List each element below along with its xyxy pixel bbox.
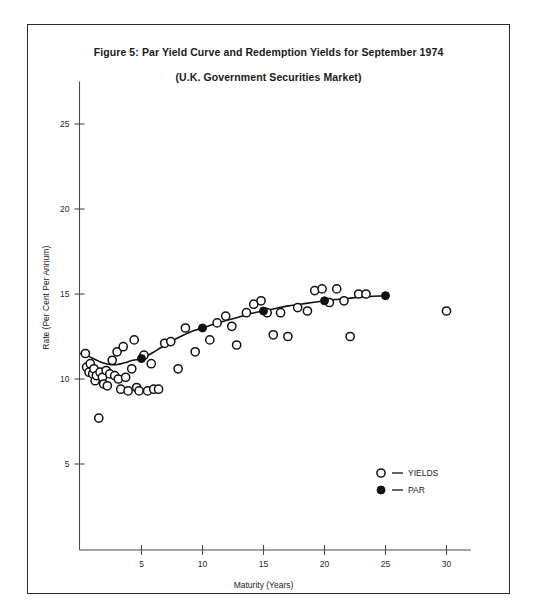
x-tick-label: 15: [259, 559, 269, 569]
legend-entry-label: PAR: [408, 485, 425, 495]
yield-data-point: [269, 331, 277, 339]
yield-data-point: [147, 360, 155, 368]
yield-data-point: [340, 297, 348, 305]
axis-labels-group: Maturity (Years)Rate (Per Cent Per Annum…: [41, 246, 294, 590]
yield-data-point: [228, 322, 236, 330]
x-tick-label: 20: [320, 559, 330, 569]
yield-data-point: [233, 341, 241, 349]
par-data-point: [321, 297, 329, 305]
yield-data-point: [318, 285, 326, 293]
axes-group: 51015202551015202530: [60, 82, 471, 570]
par-yield-scatter-chart: 51015202551015202530 Maturity (Years)Rat…: [1, 1, 535, 616]
yield-data-point: [122, 373, 130, 381]
yield-data-point: [167, 338, 175, 346]
yield-data-point: [346, 332, 354, 340]
y-tick-label: 10: [60, 374, 70, 384]
yield-data-point: [108, 356, 116, 364]
yield-data-point: [222, 312, 230, 320]
yield-data-point: [130, 336, 138, 344]
yield-data-point: [276, 309, 284, 317]
y-tick-label: 25: [60, 119, 70, 129]
legend-entry-label: YIELDS: [408, 468, 439, 478]
y-tick-label: 15: [60, 289, 70, 299]
yield-data-point: [154, 385, 162, 393]
yield-data-point: [124, 387, 132, 395]
legend-filled-circle-icon: [377, 486, 385, 494]
legend-open-circle-icon: [377, 469, 385, 477]
x-tick-label: 25: [381, 559, 391, 569]
y-axis-title: Rate (Per Cent Per Annum): [41, 246, 51, 350]
x-axis-title: Maturity (Years): [234, 580, 294, 590]
yield-data-point: [81, 349, 89, 357]
yield-data-point: [95, 414, 103, 422]
yield-data-point: [333, 285, 341, 293]
x-tick-label: 5: [139, 559, 144, 569]
yield-data-point: [242, 309, 250, 317]
yield-data-point: [206, 336, 214, 344]
y-tick-label: 20: [60, 204, 70, 214]
y-tick-label: 5: [65, 459, 70, 469]
x-tick-label: 30: [442, 559, 452, 569]
yield-data-point: [181, 324, 189, 332]
yield-data-point: [135, 387, 143, 395]
par-data-point: [199, 324, 207, 332]
chart-legend: YIELDSPAR: [377, 468, 439, 495]
yield-data-point: [362, 290, 370, 298]
yield-data-point: [284, 332, 292, 340]
yield-data-point: [213, 319, 221, 327]
yield-data-point: [303, 307, 311, 315]
yield-points-group: [81, 285, 450, 422]
yield-data-point: [442, 307, 450, 315]
yield-data-point: [128, 365, 136, 373]
figure-frame: Figure 5: Par Yield Curve and Redemption…: [27, 24, 510, 594]
par-data-point: [382, 292, 390, 300]
yield-data-point: [119, 343, 127, 351]
yield-data-point: [294, 304, 302, 312]
par-data-point: [260, 307, 268, 315]
par-data-point: [138, 355, 146, 363]
yield-data-point: [103, 382, 111, 390]
yield-data-point: [174, 365, 182, 373]
yield-data-point: [257, 297, 265, 305]
yield-data-point: [191, 348, 199, 356]
x-tick-label: 10: [198, 559, 208, 569]
